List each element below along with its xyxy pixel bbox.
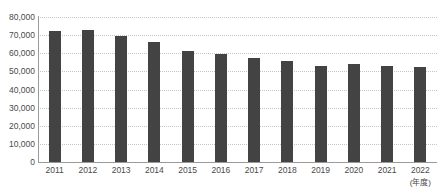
plot-area [38,17,437,162]
x-tick: 2019 [304,165,337,175]
bar [315,66,327,162]
x-tick: 2011 [38,165,71,175]
bar-slot [71,17,104,162]
y-tick-label: 50,000 [0,66,35,76]
y-tick-label: 80,000 [0,12,35,22]
x-tick: 2014 [138,165,171,175]
bar [82,30,94,162]
x-tick-label: 2011 [38,165,71,175]
x-tick-label: 2016 [204,165,237,175]
x-tick-label: 2014 [138,165,171,175]
x-tick: 2016 [204,165,237,175]
bar [148,42,160,162]
y-tick-label: 70,000 [0,30,35,40]
bar-slot [38,17,71,162]
x-tick-label: 2018 [271,165,304,175]
bar-slot [371,17,404,162]
x-tick: 2018 [271,165,304,175]
x-tick: 2022 [404,165,437,175]
x-tick-label: 2022 [404,165,437,175]
bar [414,67,426,162]
bar [215,54,227,162]
y-tick-label: 30,000 [0,103,35,113]
bar-chart: 010,00020,00030,00040,00050,00060,00070,… [0,0,440,189]
x-tick-label: 2015 [171,165,204,175]
x-tick-label: 2013 [105,165,138,175]
x-tick-label: 2012 [71,165,104,175]
x-tick-label: 2021 [371,165,404,175]
bar-slot [238,17,271,162]
bar-slot [204,17,237,162]
bar-slot [138,17,171,162]
x-axis-unit-label: (年度) [404,176,437,187]
bar [248,58,260,162]
y-axis: 010,00020,00030,00040,00050,00060,00070,… [0,0,35,189]
y-axis-line [38,16,39,163]
bar-slot [404,17,437,162]
bar [381,66,393,162]
bar [281,61,293,163]
y-tick-label: 20,000 [0,121,35,131]
bar-slot [271,17,304,162]
x-tick-label: 2017 [238,165,271,175]
bar [348,64,360,162]
y-tick-label: 40,000 [0,85,35,95]
bar-slot [171,17,204,162]
x-tick-label: 2019 [304,165,337,175]
x-tick: 2013 [105,165,138,175]
x-tick-label: 2020 [337,165,370,175]
x-tick: 2015 [171,165,204,175]
y-tick-label: 10,000 [0,139,35,149]
x-tick: 2017 [238,165,271,175]
bar-slot [105,17,138,162]
x-axis-line [38,162,437,163]
x-tick: 2012 [71,165,104,175]
x-tick: 2021 [371,165,404,175]
x-tick: 2020 [337,165,370,175]
bar-slot [304,17,337,162]
bar [49,31,61,162]
y-tick-label: 60,000 [0,48,35,58]
x-axis: 2011201220132014201520162017201820192020… [38,165,437,189]
bar [182,51,194,162]
y-tick-label: 0 [0,157,35,167]
bar-slot [337,17,370,162]
bar [115,36,127,162]
